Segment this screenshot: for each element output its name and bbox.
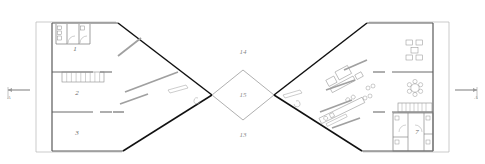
floor-plan-canvas: 1 2 3 15 14 13 (0, 0, 485, 164)
zone-label-13: 13 (240, 131, 248, 139)
zone-label-14: 14 (240, 48, 248, 56)
floor-plan-drawing: 1 2 3 15 14 13 (0, 0, 485, 164)
room-label-1: 1 (73, 45, 77, 53)
zone-label-15: 15 (240, 91, 248, 99)
room-label-2: 2 (75, 89, 79, 97)
room-label-7: 7 (415, 128, 419, 136)
room-label-3: 3 (74, 129, 79, 137)
